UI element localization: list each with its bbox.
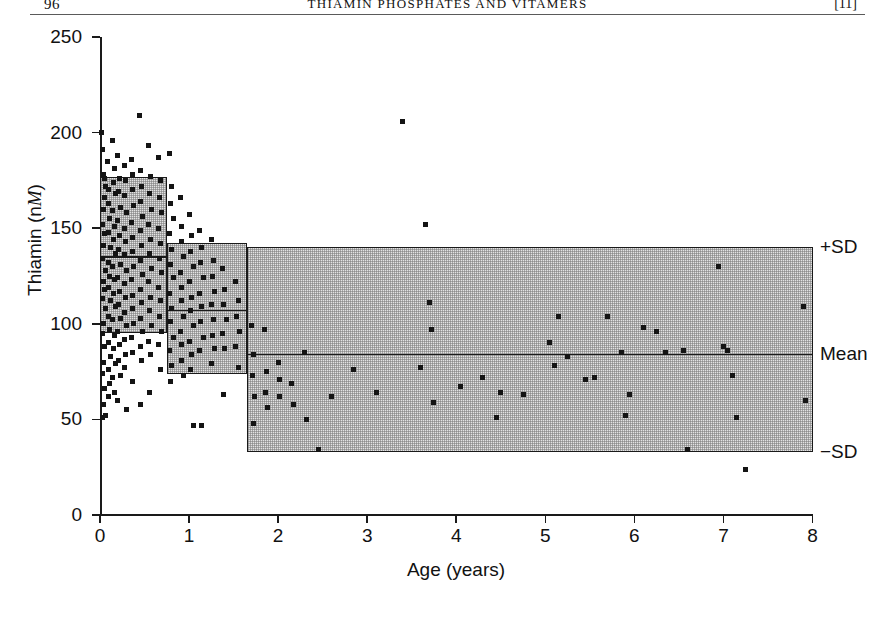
- x-tick-label-8: 8: [793, 526, 833, 545]
- scatter-point: [179, 358, 184, 363]
- scatter-point: [110, 375, 115, 380]
- scatter-point: [198, 319, 203, 324]
- scatter-point: [110, 317, 115, 322]
- scatter-point: [179, 285, 184, 290]
- x-tick-1: [188, 515, 190, 523]
- scatter-point: [100, 222, 105, 227]
- scatter-point: [102, 176, 107, 181]
- scatter-point: [171, 335, 176, 340]
- scatter-point: [112, 390, 117, 395]
- scatter-point: [130, 293, 135, 298]
- scatter-point: [304, 417, 309, 422]
- scatter-point: [169, 184, 174, 189]
- scatter-point: [101, 207, 106, 212]
- scatter-point: [211, 258, 216, 263]
- scatter-point: [138, 199, 143, 204]
- x-axis-label: Age (years): [356, 559, 556, 581]
- scatter-point: [146, 222, 151, 227]
- scatter-point: [137, 113, 142, 118]
- scatter-point: [129, 277, 134, 282]
- scatter-point: [111, 237, 116, 242]
- scatter-point: [458, 384, 463, 389]
- scatter-point: [115, 329, 120, 334]
- scatter-point: [641, 325, 646, 330]
- scatter-point: [147, 251, 152, 256]
- scatter-point: [277, 394, 282, 399]
- scatter-point: [148, 174, 153, 179]
- scatter-point: [187, 212, 192, 217]
- scatter-point: [106, 394, 111, 399]
- scatter-point: [222, 346, 227, 351]
- scatter-point: [220, 266, 225, 271]
- scatter-point: [138, 228, 143, 233]
- scatter-point: [130, 172, 135, 177]
- scatter-point: [124, 407, 129, 412]
- scatter-point: [189, 233, 194, 238]
- scatter-point: [212, 346, 217, 351]
- scatter-point: [210, 333, 215, 338]
- scatter-point: [252, 394, 257, 399]
- scatter-point: [115, 218, 120, 223]
- scatter-point: [197, 291, 202, 296]
- scatter-point: [110, 264, 115, 269]
- scatter-point: [108, 298, 113, 303]
- scatter-point: [197, 348, 202, 353]
- scatter-point: [106, 187, 111, 192]
- scatter-point: [234, 314, 239, 319]
- scatter-point: [663, 350, 668, 355]
- scatter-point: [277, 377, 282, 382]
- scatter-point: [115, 398, 120, 403]
- scatter-point: [251, 421, 256, 426]
- scatter-point: [233, 344, 238, 349]
- scatter-point: [627, 392, 632, 397]
- scatter-point: [123, 352, 128, 357]
- scatter-point: [191, 323, 196, 328]
- scatter-point: [209, 361, 214, 366]
- scatter-point: [148, 237, 153, 242]
- scatter-point: [547, 340, 552, 345]
- scatter-point: [156, 226, 161, 231]
- scatter-point: [107, 216, 112, 221]
- scatter-point: [210, 274, 215, 279]
- scatter-point: [179, 239, 184, 244]
- scatter-point: [138, 344, 143, 349]
- scatter-point: [112, 166, 117, 171]
- scatter-point: [250, 373, 255, 378]
- y-tick-label-0: 0: [30, 505, 82, 524]
- scatter-point: [123, 239, 128, 244]
- figure-thiamin-vs-age: 050100150200250 012345678 +SDMean−SD Thi…: [0, 14, 895, 623]
- scatter-point: [220, 331, 225, 336]
- scatter-point: [138, 287, 143, 292]
- scatter-point: [101, 279, 106, 284]
- scatter-point: [122, 193, 127, 198]
- scatter-point: [734, 415, 739, 420]
- scatter-point: [122, 337, 127, 342]
- scatter-point: [168, 201, 173, 206]
- x-tick-3: [366, 515, 368, 523]
- scatter-point: [108, 245, 113, 250]
- scatter-point: [168, 319, 173, 324]
- scatter-point: [107, 327, 112, 332]
- y-axis-label-suffix: ): [24, 184, 45, 190]
- scatter-point: [158, 178, 163, 183]
- scatter-point: [139, 184, 144, 189]
- scatter-point: [118, 205, 123, 210]
- scatter-point: [498, 390, 503, 395]
- x-tick-2: [277, 515, 279, 523]
- band-0.75-to-1.65y: [167, 243, 247, 373]
- scatter-point: [201, 335, 206, 340]
- scatter-point: [130, 187, 135, 192]
- scatter-point: [191, 264, 196, 269]
- scatter-point: [556, 314, 561, 319]
- scatter-point: [158, 367, 163, 372]
- scatter-point: [106, 230, 111, 235]
- scatter-point: [619, 350, 624, 355]
- scatter-point: [179, 224, 184, 229]
- running-head: 96 THIAMIN PHOSPHATES AND VITAMERS [11]: [0, 0, 895, 14]
- x-tick-label-5: 5: [525, 526, 565, 545]
- scatter-point: [130, 379, 135, 384]
- scatter-point: [209, 302, 214, 307]
- scatter-point: [552, 363, 557, 368]
- y-axis-label: Thiamin (nM): [24, 145, 46, 335]
- x-tick-label-6: 6: [614, 526, 654, 545]
